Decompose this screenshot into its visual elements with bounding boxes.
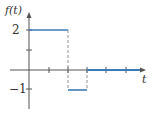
chart-plot (0, 0, 153, 117)
y-tick-label-neg1: −1 (9, 83, 27, 95)
y-tick-label-2: 2 (12, 24, 20, 36)
x-axis-label: t (142, 74, 146, 85)
y-axis-arrow-icon (27, 12, 32, 18)
y-axis-label: f(t) (5, 5, 22, 16)
x-axis-arrow-icon (140, 68, 146, 73)
